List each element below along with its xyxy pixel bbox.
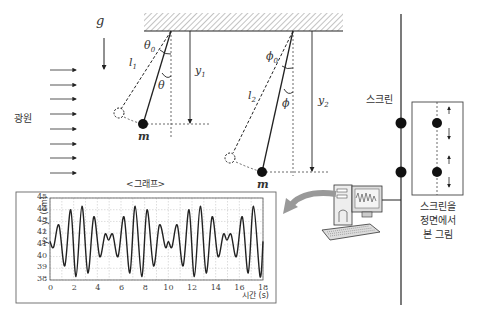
l2-label: l2 bbox=[248, 89, 256, 104]
y-tick-label: 40 bbox=[37, 251, 47, 260]
x-tick-label: 18 bbox=[258, 283, 268, 292]
pendulum-diagram bbox=[0, 0, 477, 319]
y-tick-label: 39 bbox=[37, 262, 47, 271]
y-tick-label: 38 bbox=[37, 274, 47, 283]
x-tick-label: 4 bbox=[95, 283, 100, 292]
light-rays bbox=[50, 70, 76, 173]
x-tick-label: 0 bbox=[48, 283, 53, 292]
gravity-label: g bbox=[96, 13, 104, 28]
data-flow-arrow-icon bbox=[292, 193, 336, 204]
theta-label: θ bbox=[158, 79, 165, 92]
x-tick-label: 6 bbox=[119, 283, 124, 292]
ceiling bbox=[144, 13, 343, 31]
x-tick-label: 16 bbox=[234, 283, 244, 292]
front-view-caption: 스크린을 정면에서 본 그림 bbox=[410, 200, 466, 242]
phi0-label: ϕ0 bbox=[266, 50, 278, 65]
y2-label: y2 bbox=[318, 94, 329, 109]
screen bbox=[396, 14, 407, 305]
l1-label: l1 bbox=[129, 56, 137, 71]
y-tick-label: 41 bbox=[37, 239, 47, 248]
mass-label-2: m bbox=[257, 178, 269, 191]
y1-label: y1 bbox=[195, 64, 206, 79]
light-source-label: 광원 bbox=[14, 110, 32, 125]
y-tick-label: 44 bbox=[37, 204, 47, 213]
x-tick-label: 12 bbox=[187, 283, 197, 292]
y-tick-label: 43 bbox=[37, 215, 47, 224]
y-tick-label: 45 bbox=[37, 192, 47, 201]
mass-label-1: m bbox=[138, 130, 150, 143]
graph-title: <그래프> bbox=[126, 177, 165, 190]
phi-label: ϕ bbox=[282, 97, 290, 110]
x-tick-label: 2 bbox=[72, 283, 77, 292]
x-tick-label: 8 bbox=[143, 283, 148, 292]
x-tick-label: 10 bbox=[163, 283, 173, 292]
screen-label: 스크린 bbox=[366, 91, 393, 106]
x-tick-label: 14 bbox=[211, 283, 221, 292]
y-tick-label: 42 bbox=[37, 227, 47, 236]
screen-front-view bbox=[412, 102, 463, 195]
theta0-label: θ0 bbox=[144, 39, 155, 54]
